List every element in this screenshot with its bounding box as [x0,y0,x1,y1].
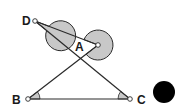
point-d [33,19,38,24]
geometry-diagram: D A B C [0,0,176,112]
segment-dc [35,21,130,99]
point-c [128,97,133,102]
label-a: A [75,40,84,54]
label-b: B [12,93,21,107]
point-a [96,43,101,48]
black-dot [153,81,175,103]
segment-ab [28,45,98,99]
label-c: C [137,93,146,107]
label-d: D [22,14,31,28]
point-b [26,97,31,102]
